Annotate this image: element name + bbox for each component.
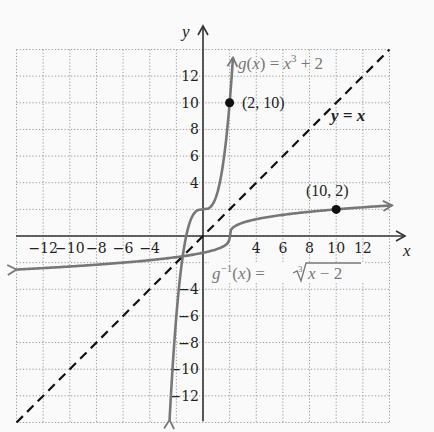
svg-text:x − 2: x − 2 xyxy=(307,264,342,283)
inverse-function-graph: x y −12−10−8−6−44681012 1210864−4−6−8−10… xyxy=(0,0,434,432)
y-tick-label: −12 xyxy=(169,388,199,404)
point-2-10 xyxy=(225,98,234,107)
y-tick-label: 8 xyxy=(190,121,199,137)
x-tick-label: −4 xyxy=(139,240,160,256)
x-tick-label: 8 xyxy=(305,240,314,256)
x-tick-label: 10 xyxy=(327,240,345,256)
y-tick-label: −8 xyxy=(178,335,199,351)
x-tick-label: −12 xyxy=(28,240,58,256)
x-tick-label: 6 xyxy=(278,240,287,256)
x-tick-label: −10 xyxy=(55,240,85,256)
y-tick-label: 12 xyxy=(181,68,199,84)
y-tick-label: 10 xyxy=(181,95,199,111)
x-tick-label: 12 xyxy=(354,240,372,256)
x-axis-label: x xyxy=(402,241,411,260)
point-label-10-2: (10, 2) xyxy=(306,182,349,200)
svg-text:3: 3 xyxy=(298,264,303,274)
g-inverse-label: g−1(x) = 3 x − 2 xyxy=(209,262,364,283)
g-label: g(x) = x3 + 2 xyxy=(238,52,323,73)
identity-line-label: y = x xyxy=(329,106,366,125)
x-tick-label: 4 xyxy=(252,240,261,256)
point-label-2-10: (2, 10) xyxy=(242,94,285,112)
point-10-2 xyxy=(332,205,341,214)
x-tick-label: −6 xyxy=(113,240,134,256)
y-axis-label: y xyxy=(180,22,190,41)
svg-text:g−1(x) =: g−1(x) = xyxy=(212,262,265,283)
y-tick-label: −6 xyxy=(178,308,199,324)
x-tick-label: −8 xyxy=(86,240,107,256)
y-tick-label: 4 xyxy=(190,175,199,191)
g-inverse-curve xyxy=(17,205,393,269)
y-tick-label: −4 xyxy=(178,281,199,297)
y-tick-label: 6 xyxy=(190,148,199,164)
